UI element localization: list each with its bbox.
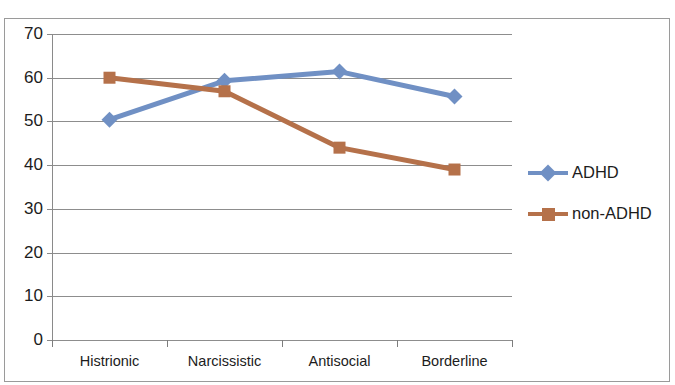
data-point-marker (102, 112, 118, 128)
legend-marker-icon (528, 206, 568, 222)
legend-marker-icon (528, 165, 568, 181)
y-axis-tick-label: 0 (34, 330, 43, 350)
data-point-marker (219, 85, 231, 97)
data-point-marker (449, 164, 461, 176)
x-axis-tick (167, 340, 168, 347)
chart-figure: 706050403020100 HistrionicNarcissisticAn… (0, 0, 675, 385)
series-line-non-adhd (110, 78, 455, 170)
y-axis-tick-label: 10 (24, 286, 43, 306)
x-axis-category-label: Histrionic (80, 353, 140, 369)
y-axis-tick-label: 40 (24, 155, 43, 175)
y-axis-tick-label: 20 (24, 243, 43, 263)
x-axis-tick (52, 340, 53, 347)
data-point-marker (104, 72, 116, 84)
x-axis-category-label: Narcissistic (188, 353, 261, 369)
legend-label: non-ADHD (572, 204, 652, 223)
y-axis-tick-label: 70 (24, 24, 43, 44)
legend-entry: ADHD (528, 163, 652, 182)
series-line-adhd (110, 72, 455, 120)
x-axis-tick (397, 340, 398, 347)
series-layer (52, 34, 512, 340)
x-axis-tick (282, 340, 283, 347)
data-point-marker (332, 64, 348, 80)
plot-area: 706050403020100 (52, 34, 512, 340)
x-axis-labels: HistrionicNarcissisticAntisocialBorderli… (52, 340, 512, 380)
x-axis-category-label: Antisocial (308, 353, 370, 369)
legend-symbol-diamond-icon (540, 164, 557, 181)
y-axis-tick-label: 50 (24, 111, 43, 131)
legend-entry: non-ADHD (528, 204, 652, 223)
x-axis-tick (512, 340, 513, 347)
data-point-marker (334, 142, 346, 154)
y-axis-tick-label: 30 (24, 199, 43, 219)
legend-label: ADHD (572, 163, 619, 182)
legend-symbol-square-icon (542, 208, 555, 221)
y-axis-tick-label: 60 (24, 68, 43, 88)
data-point-marker (447, 89, 463, 105)
x-axis-category-label: Borderline (421, 353, 487, 369)
chart-legend: ADHDnon-ADHD (528, 163, 652, 223)
